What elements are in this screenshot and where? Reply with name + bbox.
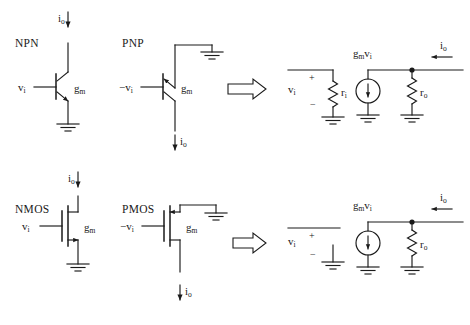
npn-gm-label: gm (74, 83, 85, 94)
bjt-equiv-output-group (356, 57, 463, 122)
pnp-gm-label: gm (181, 83, 192, 94)
nmos-device-group (40, 172, 89, 271)
mos-ro-resistor (408, 230, 417, 256)
implies-arrow-bottom (233, 233, 266, 253)
bjt-ro-resistor (408, 78, 417, 104)
nmos-gm-label: gm (84, 222, 95, 233)
pnp-collector-slant (164, 92, 175, 101)
pnp-emitter-arrow (164, 79, 175, 88)
circuit-canvas (0, 0, 470, 325)
mos-plus-sign: + (309, 231, 315, 241)
nmos-title: NMOS (15, 204, 49, 216)
bjt-ri-label: ri (341, 87, 347, 98)
mos-minus-sign: − (310, 250, 316, 260)
bjt-vi-label: vi (288, 84, 296, 95)
bjt-minus-sign: − (310, 100, 316, 110)
pnp-vi-label: −vi (119, 82, 133, 93)
mos-equiv-input-group (288, 228, 344, 269)
mos-io-label: io (440, 192, 447, 203)
npn-io-label: io (58, 13, 65, 24)
pmos-gm-label: gm (186, 222, 197, 233)
bjt-equiv-input-group (288, 70, 344, 124)
pnp-title: PNP (122, 38, 144, 50)
npn-vi-label: vi (18, 82, 26, 93)
mos-vi-label: vi (288, 236, 296, 247)
bjt-gmvi-label: gmvi (353, 48, 372, 59)
pmos-io-label: io (185, 286, 192, 297)
npn-device-group (34, 12, 79, 131)
bjt-io-label: io (440, 40, 447, 51)
nmos-vi-label: vi (22, 221, 30, 232)
bjt-ri-resistor (329, 81, 338, 107)
mos-gmvi-label: gmvi (353, 200, 372, 211)
bjt-plus-sign: + (309, 73, 315, 83)
npn-emitter-arrow (57, 92, 68, 101)
npn-title: NPN (15, 38, 39, 50)
bjt-ro-label: ro (420, 87, 427, 98)
mos-equiv-output-group (356, 209, 463, 274)
mos-ro-label: ro (420, 239, 427, 250)
pmos-vi-label: −vi (120, 221, 134, 232)
npn-collector-slant (57, 72, 68, 81)
implies-arrow-top (228, 79, 266, 99)
pmos-title: PMOS (122, 204, 155, 216)
nmos-io-label: io (68, 173, 75, 184)
circuit-figure: NPN io vi gm PNP io −vi gm vi + − ri gmv… (0, 0, 470, 325)
pnp-io-label: io (180, 136, 187, 147)
